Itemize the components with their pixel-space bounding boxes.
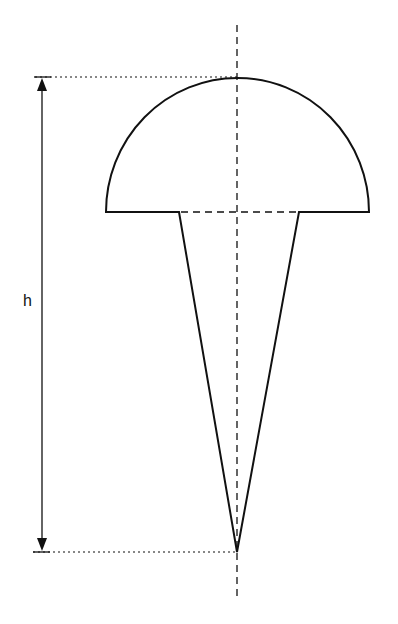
arrow-up-icon <box>37 78 47 91</box>
arrow-down-icon <box>37 538 47 551</box>
diagram-canvas: h <box>0 0 398 624</box>
height-dimension-arrow <box>37 78 47 551</box>
height-label: h <box>23 292 32 309</box>
